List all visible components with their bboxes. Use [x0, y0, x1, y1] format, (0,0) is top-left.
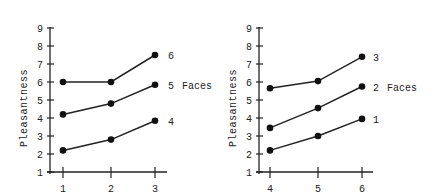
series-label: 1 [373, 115, 379, 126]
y-tick-label: 3 [37, 132, 43, 143]
x-tick-label: 2 [108, 184, 114, 195]
data-point [267, 85, 274, 92]
y-tick-label: 8 [246, 42, 252, 53]
data-point [267, 125, 274, 132]
data-point [152, 52, 159, 59]
x-tick-label: 1 [60, 184, 66, 195]
legend-title: Faces [387, 83, 417, 94]
y-tick-label: 2 [37, 150, 43, 161]
legend-title: Faces [182, 81, 212, 92]
series-label: 2 [373, 83, 379, 94]
y-tick-label: 6 [37, 78, 43, 89]
y-tick-label: 9 [246, 24, 252, 35]
y-tick-label: 4 [37, 114, 43, 125]
data-point [152, 81, 159, 88]
data-point [108, 100, 115, 107]
data-point [152, 117, 159, 124]
chart-canvas: 123456789123Pleasantness65Faces412345678… [0, 0, 437, 195]
y-tick-label: 9 [37, 24, 43, 35]
data-point [315, 105, 322, 112]
series-label: 3 [373, 53, 379, 64]
series-label: 5 [168, 81, 174, 92]
series-label: 4 [168, 117, 174, 128]
chart-panel-1: 123456789123Pleasantness65Faces4 [19, 24, 212, 196]
x-tick-label: 6 [359, 184, 365, 195]
y-axis-label: Pleasantness [228, 69, 239, 147]
data-point [60, 147, 67, 154]
y-axis-label: Pleasantness [19, 69, 30, 147]
y-tick-label: 1 [37, 168, 43, 179]
y-tick-label: 6 [246, 78, 252, 89]
y-tick-label: 2 [246, 150, 252, 161]
series-line [63, 85, 155, 115]
data-point [359, 54, 366, 61]
series-line [63, 55, 155, 82]
x-tick-label: 3 [152, 184, 158, 195]
y-tick-label: 8 [37, 42, 43, 53]
chart-panel-2: 123456789456Pleasantness32Faces1 [228, 24, 417, 196]
data-point [108, 79, 115, 86]
y-tick-label: 7 [37, 60, 43, 71]
y-tick-label: 3 [246, 132, 252, 143]
y-tick-label: 5 [37, 96, 43, 107]
data-point [359, 83, 366, 90]
series-line [63, 121, 155, 151]
y-tick-label: 5 [246, 96, 252, 107]
y-tick-label: 7 [246, 60, 252, 71]
data-point [359, 116, 366, 123]
x-tick-label: 4 [267, 184, 273, 195]
x-tick-label: 5 [315, 184, 321, 195]
data-point [267, 147, 274, 154]
series-label: 6 [168, 51, 174, 62]
data-point [108, 136, 115, 143]
y-tick-label: 4 [246, 114, 252, 125]
y-tick-label: 1 [246, 168, 252, 179]
data-point [60, 111, 67, 118]
data-point [315, 78, 322, 85]
data-point [315, 133, 322, 140]
data-point [60, 79, 67, 86]
